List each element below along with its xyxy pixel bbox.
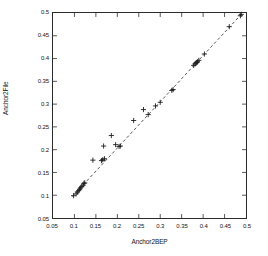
y-tick-label: 0.1 <box>21 193 49 199</box>
x-tick-label: 0.2 <box>113 223 121 229</box>
scatter-plot-figure: Anchor2File 0.050.10.150.20.250.30.350.4… <box>0 0 268 256</box>
x-tick-label: 0.1 <box>70 223 78 229</box>
reference-line <box>72 13 242 197</box>
x-tick-label: 0.5 <box>243 223 251 229</box>
y-tick-label: 0.05 <box>21 216 49 222</box>
x-tick-label: 0.25 <box>133 223 144 229</box>
y-tick-label: 0.3 <box>21 101 49 107</box>
y-axis-title: Anchor2File <box>2 81 9 115</box>
y-tick-label: 0.2 <box>21 147 49 153</box>
x-tick-label: 0.15 <box>90 223 101 229</box>
x-axis-title: Anchor2BEP <box>52 238 247 245</box>
x-tick-label: 0.35 <box>176 223 187 229</box>
plot-canvas <box>53 13 246 218</box>
y-tick-label: 0.4 <box>21 55 49 61</box>
x-tick-label: 0.05 <box>46 223 57 229</box>
x-tick-label: 0.3 <box>156 223 164 229</box>
x-tick-label: 0.45 <box>220 223 231 229</box>
y-tick-label: 0.35 <box>21 78 49 84</box>
y-tick-label: 0.15 <box>21 170 49 176</box>
x-tick-label: 0.4 <box>200 223 208 229</box>
y-tick-label: 0.25 <box>21 124 49 130</box>
y-tick-label: 0.5 <box>21 9 49 15</box>
plot-area <box>52 12 247 219</box>
y-tick-label: 0.45 <box>21 32 49 38</box>
